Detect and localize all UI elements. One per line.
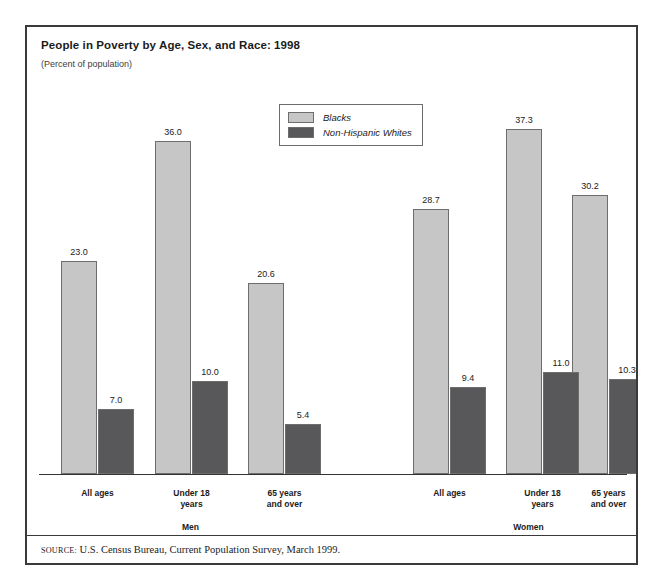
bar-non-hispanic-whites-5 (609, 379, 638, 474)
bar-value-label: 36.0 (147, 127, 199, 137)
source-note: SOURCE: U.S. Census Bureau, Current Popu… (41, 544, 340, 555)
source-keyword: SOURCE: (41, 546, 77, 555)
bar-value-label: 23.0 (53, 247, 105, 257)
chart-figure: People in Poverty by Age, Sex, and Race:… (25, 25, 638, 565)
bar-blacks-3 (413, 209, 449, 474)
bar-value-label: 10.0 (184, 367, 236, 377)
category-label-5: 65 yearsand over (556, 488, 638, 510)
bar-non-hispanic-whites-1 (192, 381, 228, 474)
bar-non-hispanic-whites-0 (98, 409, 134, 474)
bar-value-label: 10.3 (601, 365, 638, 375)
bar-non-hispanic-whites-4 (543, 372, 579, 474)
bar-value-label: 37.3 (498, 115, 550, 125)
footer-divider (27, 535, 636, 536)
group-label-women: Women (479, 522, 579, 532)
bar-value-label: 30.2 (564, 181, 616, 191)
bar-value-label: 5.4 (277, 410, 329, 420)
bar-blacks-2 (248, 283, 284, 474)
bar-value-label: 9.4 (442, 373, 494, 383)
category-label-1: Under 18years (139, 488, 244, 510)
bar-blacks-0 (61, 261, 97, 474)
plot-area: 23.036.020.628.737.330.27.010.05.49.411.… (27, 27, 636, 563)
bar-value-label: 11.0 (535, 358, 587, 368)
group-label-men: Men (141, 522, 241, 532)
bar-value-label: 28.7 (405, 195, 457, 205)
bar-value-label: 20.6 (240, 269, 292, 279)
bar-blacks-4 (506, 129, 542, 474)
x-axis-baseline (39, 474, 627, 475)
category-label-2: 65 yearsand over (232, 488, 337, 510)
bar-blacks-1 (155, 141, 191, 474)
category-label-0: All ages (45, 488, 150, 499)
bar-non-hispanic-whites-3 (450, 387, 486, 474)
bar-non-hispanic-whites-2 (285, 424, 321, 474)
source-text: U.S. Census Bureau, Current Population S… (80, 544, 341, 555)
category-label-3: All ages (397, 488, 502, 499)
bar-value-label: 7.0 (90, 395, 142, 405)
